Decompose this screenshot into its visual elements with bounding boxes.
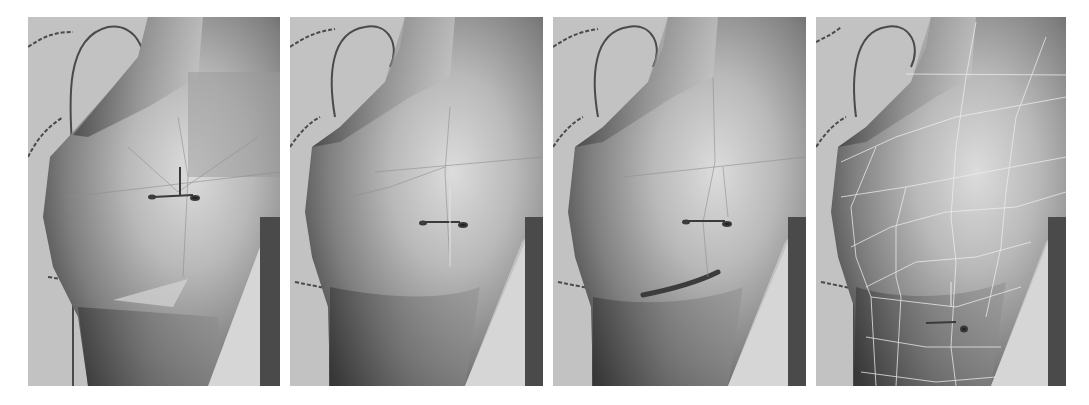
side-bar: [260, 217, 280, 386]
viewport-panel-1: [28, 17, 280, 386]
render-stage-2: [290, 17, 543, 386]
render-stage-3: [553, 17, 806, 386]
viewport-panel-3: [553, 17, 806, 386]
render-stage-4: [816, 17, 1066, 386]
viewport-panel-2: [290, 17, 543, 386]
viewport-panel-4: [816, 17, 1066, 386]
render-stage-1: [28, 17, 280, 386]
